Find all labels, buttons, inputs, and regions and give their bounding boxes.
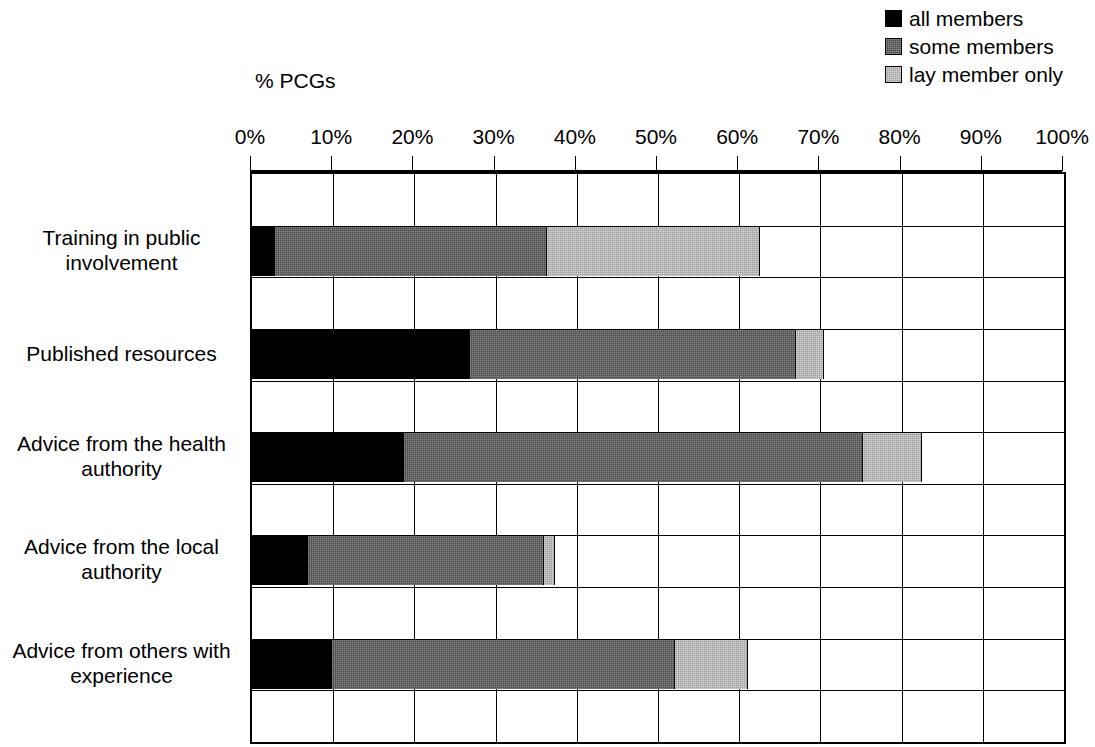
legend-swatch-icon	[885, 38, 902, 55]
bar-segment[interactable]	[404, 433, 863, 482]
bar-segment[interactable]	[470, 330, 796, 379]
bar-segment[interactable]	[863, 433, 922, 482]
x-axis-tick-mark	[412, 156, 413, 171]
bar-segment[interactable]	[252, 227, 275, 276]
x-axis-tick-label: 10%	[310, 126, 352, 147]
grid-line-horizontal	[252, 690, 1064, 691]
x-axis-tick-mark	[737, 156, 738, 171]
bar-segment[interactable]	[796, 330, 824, 379]
bar-segment[interactable]	[252, 330, 470, 379]
x-axis-title: % PCGs	[255, 70, 336, 91]
legend-swatch-icon	[885, 10, 902, 27]
x-axis-tick-mark	[250, 156, 251, 171]
y-axis-category-label: Advice from the local authority	[0, 534, 243, 584]
grid-line-horizontal	[252, 587, 1064, 588]
x-axis-tick-mark	[331, 156, 332, 171]
bar-segment[interactable]	[675, 640, 748, 689]
y-axis-category-label: Advice from others with experience	[0, 638, 243, 688]
x-axis-tick-mark	[494, 156, 495, 171]
x-axis-tick-label: 60%	[716, 126, 758, 147]
legend-item-label: some members	[909, 36, 1054, 57]
x-axis-tick-label: 50%	[635, 126, 677, 147]
grid-line-horizontal	[252, 484, 1064, 485]
y-axis-category-label: Published resources	[0, 340, 243, 365]
bar-segment[interactable]	[252, 433, 404, 482]
x-axis-tick-mark	[900, 156, 901, 171]
bar-segment[interactable]	[547, 227, 761, 276]
x-axis-tick-mark	[575, 156, 576, 171]
legend-item[interactable]: lay member only	[885, 60, 1095, 88]
grid-line-horizontal	[252, 381, 1064, 382]
bar-stack[interactable]	[252, 227, 760, 276]
bar-segment[interactable]	[308, 536, 544, 585]
y-axis-category-label: Advice from the health authority	[0, 431, 243, 481]
legend-item-label: lay member only	[909, 64, 1063, 85]
bar-stack[interactable]	[252, 640, 748, 689]
bar-stack[interactable]	[252, 330, 824, 379]
x-axis-tick-label: 90%	[960, 126, 1002, 147]
bar-stack[interactable]	[252, 536, 555, 585]
bar-segment[interactable]	[544, 536, 555, 585]
x-axis-tick-label: 40%	[554, 126, 596, 147]
x-axis-tick-label: 20%	[391, 126, 433, 147]
x-axis-tick-mark	[1062, 156, 1063, 171]
x-axis-tick-label: 100%	[1035, 126, 1089, 147]
bar-segment[interactable]	[252, 640, 332, 689]
x-axis-tick-label: 70%	[797, 126, 839, 147]
chart-figure: all memberssome memberslay member only %…	[0, 0, 1095, 747]
x-axis-tick-mark	[981, 156, 982, 171]
legend-swatch-icon	[885, 66, 902, 83]
grid-line-vertical	[983, 174, 984, 742]
bar-segment[interactable]	[252, 536, 308, 585]
x-axis-tick-label: 30%	[473, 126, 515, 147]
y-axis-category-label: Training in public involvement	[0, 225, 243, 275]
bar-segment[interactable]	[275, 227, 547, 276]
legend-item[interactable]: some members	[885, 32, 1095, 60]
x-axis-tick-mark	[818, 156, 819, 171]
x-axis-tick-mark	[656, 156, 657, 171]
legend-item[interactable]: all members	[885, 4, 1095, 32]
legend-item-label: all members	[909, 8, 1023, 29]
x-axis-tick-label: 80%	[879, 126, 921, 147]
bar-segment[interactable]	[332, 640, 675, 689]
y-axis-category-labels: Training in public involvementPublished …	[0, 0, 245, 747]
plot-area	[250, 172, 1066, 744]
grid-line-horizontal	[252, 277, 1064, 278]
bar-stack[interactable]	[252, 433, 922, 482]
chart-legend: all memberssome memberslay member only	[885, 4, 1095, 88]
